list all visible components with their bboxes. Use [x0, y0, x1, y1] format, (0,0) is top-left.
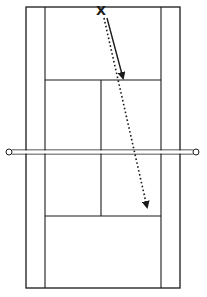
player-marker-x: X — [96, 4, 106, 17]
net-post-left — [6, 149, 12, 155]
shot-path-dotted-arrow — [104, 18, 147, 207]
court-outer-boundary — [26, 7, 180, 288]
net-post-right — [193, 149, 199, 155]
net-band — [12, 151, 193, 154]
tennis-court-diagram — [0, 0, 207, 297]
